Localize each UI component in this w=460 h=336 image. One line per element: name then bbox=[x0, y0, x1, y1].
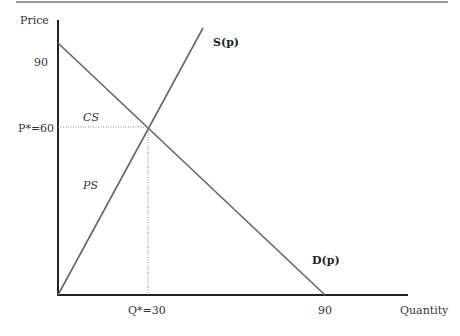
ps-label: PS bbox=[83, 180, 98, 191]
x-axis-label: Quantity bbox=[400, 305, 448, 316]
cs-label: CS bbox=[83, 112, 99, 123]
y-tick-90: 90 bbox=[34, 57, 48, 68]
supply-label: S(p) bbox=[213, 37, 239, 48]
demand-label: D(p) bbox=[312, 255, 340, 266]
demand-curve bbox=[58, 43, 325, 295]
supply-curve bbox=[58, 28, 203, 295]
x-tick-90: 90 bbox=[318, 305, 332, 316]
y-axis-label: Price bbox=[20, 15, 49, 26]
x-tick-q-star: Q*=30 bbox=[128, 305, 166, 316]
y-tick-p-star: P*=60 bbox=[18, 123, 54, 134]
supply-demand-chart bbox=[0, 0, 460, 336]
